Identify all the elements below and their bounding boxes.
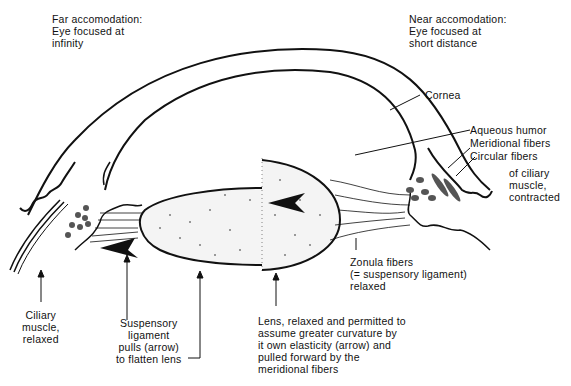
lens-flattened: [140, 188, 265, 265]
far-accommodation-title: Far accomodation: Eye focused at infinit…: [52, 13, 142, 49]
circular-fibers-label: Circular fibers: [470, 150, 538, 162]
cornea-label: Cornea: [425, 89, 461, 101]
lens-rounded: [262, 160, 340, 270]
near-accommodation-title: Near accomodation: Eye focused at short …: [409, 13, 507, 49]
meridional-fibers-label: Meridional fibers: [470, 137, 550, 149]
aqueous-humor-label: Aqueous humor: [470, 124, 547, 136]
ciliary-relaxed-label: Ciliary muscle, relaxed: [22, 309, 60, 345]
sclera-left-wave: [20, 162, 75, 211]
zonula-fibers-label: Zonula fibers (= suspensory ligament) re…: [350, 256, 467, 292]
suspensory-ligament-label: Suspensory ligament pulls (arrow) to fla…: [116, 317, 181, 365]
lens-relaxed-label: Lens, relaxed and permitted to assume gr…: [258, 315, 406, 375]
ciliary-contracted-label: of ciliary muscle, contracted: [509, 167, 560, 203]
cornea-inner-arc: [105, 70, 416, 190]
